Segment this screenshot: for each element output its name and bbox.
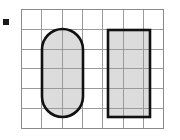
grid-shapes-diagram [0,0,180,140]
bullet-square [3,19,9,25]
figure-canvas [0,0,180,140]
